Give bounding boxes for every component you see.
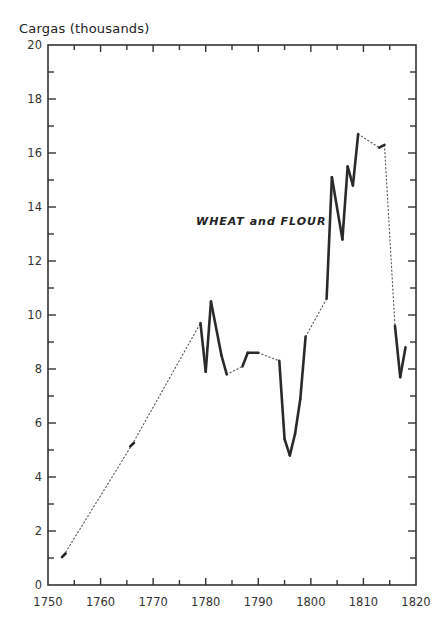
y-tick-label: 8 [35, 362, 42, 376]
y-tick-label: 4 [35, 470, 42, 484]
solid-data-lines [200, 134, 405, 455]
x-tick-label: 1790 [244, 595, 273, 609]
y-tick-label: 10 [27, 308, 42, 322]
x-tick-label: 1770 [139, 595, 168, 609]
x-tick-label: 1780 [191, 595, 220, 609]
data-point-marker [130, 443, 134, 447]
axes: 1750176017701780179018001810182002468101… [27, 38, 430, 609]
data-point-marker [62, 554, 66, 558]
line-chart: 1750176017701780179018001810182002468101… [0, 0, 444, 619]
x-tick-label: 1750 [33, 595, 62, 609]
x-tick-label: 1810 [349, 595, 378, 609]
y-tick-label: 16 [27, 146, 42, 160]
y-tick-label: 6 [35, 416, 42, 430]
y-tick-label: 0 [35, 578, 42, 592]
plot-frame [48, 45, 416, 585]
y-tick-label: 18 [27, 92, 42, 106]
x-tick-label: 1800 [296, 595, 325, 609]
y-tick-label: 20 [27, 38, 42, 52]
x-tick-label: 1820 [401, 595, 430, 609]
y-tick-label: 14 [27, 200, 42, 214]
y-tick-label: 2 [35, 524, 42, 538]
x-tick-label: 1760 [86, 595, 115, 609]
y-tick-label: 12 [27, 254, 42, 268]
